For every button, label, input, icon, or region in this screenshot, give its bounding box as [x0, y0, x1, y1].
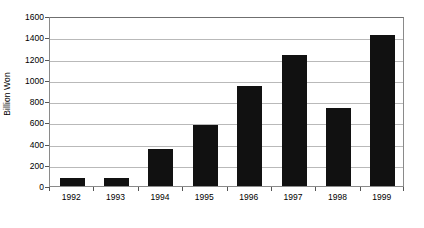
y-axis-title: Billion Won [0, 0, 14, 187]
y-axis-tick-label: 600 [30, 118, 44, 128]
x-axis-tick-mark [227, 187, 228, 191]
x-axis-tick-mark [271, 187, 272, 191]
y-axis-tick-label: 0 [39, 182, 44, 192]
bar [193, 125, 218, 186]
x-axis-tick-label: 1997 [284, 192, 303, 202]
y-axis-tick-label: 400 [30, 140, 44, 150]
x-axis-tick-mark [182, 187, 183, 191]
y-axis-tick-labels: 02004006008001000120014001600 [14, 17, 47, 187]
y-axis-tick-label: 1600 [25, 12, 44, 22]
x-axis-tick-label: 1994 [150, 192, 169, 202]
x-axis-tick-label: 1995 [195, 192, 214, 202]
x-axis-ticks [49, 187, 404, 191]
x-axis-tick-label: 1996 [239, 192, 258, 202]
x-axis-tick-label: 1993 [106, 192, 125, 202]
plot-area [49, 17, 404, 187]
x-axis-tick-label: 1999 [372, 192, 391, 202]
bar [148, 149, 173, 186]
y-axis-title-text: Billion Won [2, 72, 12, 115]
bar [104, 178, 129, 187]
bar-chart: Billion Won 0200400600800100012001400160… [0, 0, 424, 228]
x-axis-tick-mark [49, 187, 50, 191]
y-axis-tick-label: 1200 [25, 55, 44, 65]
y-axis-tick-label: 1400 [25, 33, 44, 43]
bar [60, 178, 85, 187]
x-axis-tick-mark [138, 187, 139, 191]
x-axis-tick-mark [93, 187, 94, 191]
y-axis-tick-label: 1000 [25, 76, 44, 86]
x-axis-tick-labels: 19921993199419951996199719981999 [49, 192, 404, 208]
y-axis-tick-label: 800 [30, 97, 44, 107]
bars-layer [50, 18, 403, 186]
bar [282, 55, 307, 186]
x-axis-tick-label: 1992 [62, 192, 81, 202]
x-axis-tick-mark [315, 187, 316, 191]
bar [326, 108, 351, 186]
y-axis-tick-label: 200 [30, 161, 44, 171]
x-axis-tick-label: 1998 [328, 192, 347, 202]
bar [370, 35, 395, 186]
x-axis-tick-mark [403, 187, 404, 191]
bar [237, 86, 262, 186]
x-axis-tick-mark [360, 187, 361, 191]
